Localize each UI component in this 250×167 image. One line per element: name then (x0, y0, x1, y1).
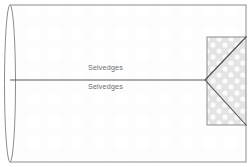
diagram-canvas (0, 0, 250, 167)
selvedge-label-top: Selvedges (88, 63, 123, 72)
fabric-folding-diagram: Selvedges Selvedges (0, 0, 250, 167)
shaded-panel-rect (207, 37, 246, 125)
fold-ellipse (5, 5, 16, 162)
selvedge-label-bottom: Selvedges (88, 82, 123, 91)
folded-edge (5, 5, 16, 162)
shaded-end-panel (207, 37, 246, 125)
